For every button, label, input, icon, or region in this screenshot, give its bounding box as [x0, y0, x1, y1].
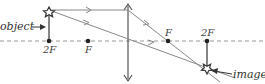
- label-2f-right: 2F: [201, 28, 214, 38]
- point-2f-left: [47, 39, 52, 44]
- point-2f-right: [205, 39, 210, 44]
- image-arrow: [202, 41, 213, 74]
- label-f-right: F: [165, 28, 172, 38]
- label-f-left: F: [85, 45, 92, 55]
- point-f-left: [86, 39, 91, 44]
- label-2f-left: 2F: [43, 45, 56, 55]
- point-f-right: [166, 39, 171, 44]
- ray-diagram: [0, 0, 265, 84]
- object-label: object: [0, 21, 34, 32]
- converging-lens: [124, 4, 132, 81]
- image-label: image: [233, 69, 265, 80]
- object-arrow: [44, 7, 55, 41]
